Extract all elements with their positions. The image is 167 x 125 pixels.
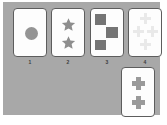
cross-icon bbox=[140, 39, 151, 50]
card-label-1: 1 bbox=[13, 59, 47, 65]
square-shape bbox=[95, 14, 106, 25]
cross-icon bbox=[132, 96, 145, 109]
card-4-face bbox=[129, 9, 161, 56]
cross-icon bbox=[147, 26, 158, 37]
cross-icon bbox=[133, 26, 144, 37]
card-option-2[interactable] bbox=[51, 8, 85, 57]
card-3-face bbox=[91, 9, 123, 56]
card-option-3[interactable] bbox=[90, 8, 124, 57]
card-option-1[interactable] bbox=[13, 8, 47, 57]
card-2-face bbox=[52, 9, 84, 56]
square-shape bbox=[95, 40, 106, 50]
cross-icon bbox=[140, 13, 151, 24]
star-icon bbox=[61, 35, 76, 50]
card-board: 1 2 bbox=[3, 2, 160, 115]
card-option-4[interactable] bbox=[128, 8, 162, 57]
puzzle-stage: 1 2 bbox=[0, 0, 167, 125]
answer-card[interactable] bbox=[121, 67, 155, 117]
star-icon bbox=[61, 17, 76, 32]
card-label-4: 4 bbox=[128, 59, 162, 65]
square-shape bbox=[106, 27, 118, 38]
cross-icon bbox=[132, 77, 145, 90]
card-label-3: 3 bbox=[90, 59, 124, 65]
card-label-2: 2 bbox=[51, 59, 85, 65]
card-1-face bbox=[14, 9, 46, 56]
answer-card-face bbox=[122, 68, 154, 116]
circle-shape bbox=[25, 27, 38, 40]
